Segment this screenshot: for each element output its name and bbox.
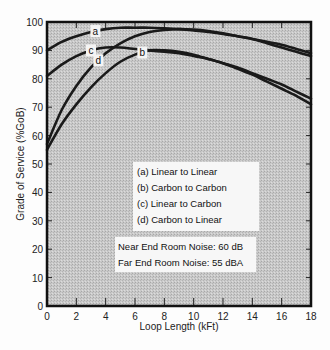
grade-of-service-chart: abcd (a) Linear to Linear (b) Carbon to … [0, 0, 330, 350]
x-tick-label: 18 [305, 311, 317, 322]
x-tick-label: 12 [217, 311, 229, 322]
y-tick-label: 80 [32, 74, 44, 85]
y-tick-label: 10 [32, 273, 44, 284]
x-axis-title: Loop Length (kFt) [140, 321, 219, 332]
curve-label-a: a [93, 26, 99, 37]
x-tick-label: 6 [132, 311, 138, 322]
x-tick-label: 0 [44, 311, 50, 322]
legend: (a) Linear to Linear (b) Carbon to Carbo… [133, 162, 259, 231]
legend-item-a: (a) Linear to Linear [137, 166, 217, 177]
legend-item-c: (c) Linear to Carbon [137, 198, 221, 209]
y-tick-label: 40 [32, 187, 44, 198]
x-tick-label: 4 [103, 311, 109, 322]
y-tick-label: 30 [32, 216, 44, 227]
curve-label-c: c [89, 45, 94, 56]
y-tick-label: 50 [32, 159, 44, 170]
far-end-noise-note: Far End Room Noise: 55 dBA [118, 257, 244, 268]
y-tick-label: 60 [32, 131, 44, 142]
near-end-noise-note: Near End Room Noise: 60 dB [118, 241, 243, 252]
y-tick-label: 100 [26, 17, 43, 28]
y-axis-title: Grade of Service (%GoB) [15, 107, 26, 220]
noise-annotation: Near End Room Noise: 60 dB Far End Room … [115, 237, 256, 272]
x-tick-label: 14 [247, 311, 259, 322]
x-tick-label: 2 [74, 311, 80, 322]
legend-item-b: (b) Carbon to Carbon [137, 182, 227, 193]
y-tick-label: 70 [32, 102, 44, 113]
curve-label-d: d [96, 55, 102, 66]
legend-item-d: (d) Carbon to Linear [137, 214, 222, 225]
y-tick-label: 0 [37, 301, 43, 312]
y-tick-label: 20 [32, 244, 44, 255]
curve-label-b: b [140, 47, 146, 58]
x-tick-label: 16 [276, 311, 288, 322]
y-tick-label: 90 [32, 45, 44, 56]
